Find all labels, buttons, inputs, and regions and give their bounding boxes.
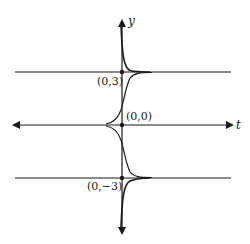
solution-curve-above-upper <box>121 24 150 72</box>
solution-curve-diagram <box>0 0 250 244</box>
solution-curve-between-lower <box>106 126 152 178</box>
point-origin-dot <box>120 123 124 127</box>
t-axis-label: t <box>236 119 241 131</box>
solution-curve-below-lower <box>121 178 150 228</box>
point-lower-label: (0,−3) <box>87 181 122 192</box>
point-origin-label: (0,0) <box>126 111 152 122</box>
point-upper-dot <box>120 70 124 74</box>
point-upper-label: (0,3) <box>97 76 123 87</box>
y-axis-label: y <box>128 15 135 27</box>
